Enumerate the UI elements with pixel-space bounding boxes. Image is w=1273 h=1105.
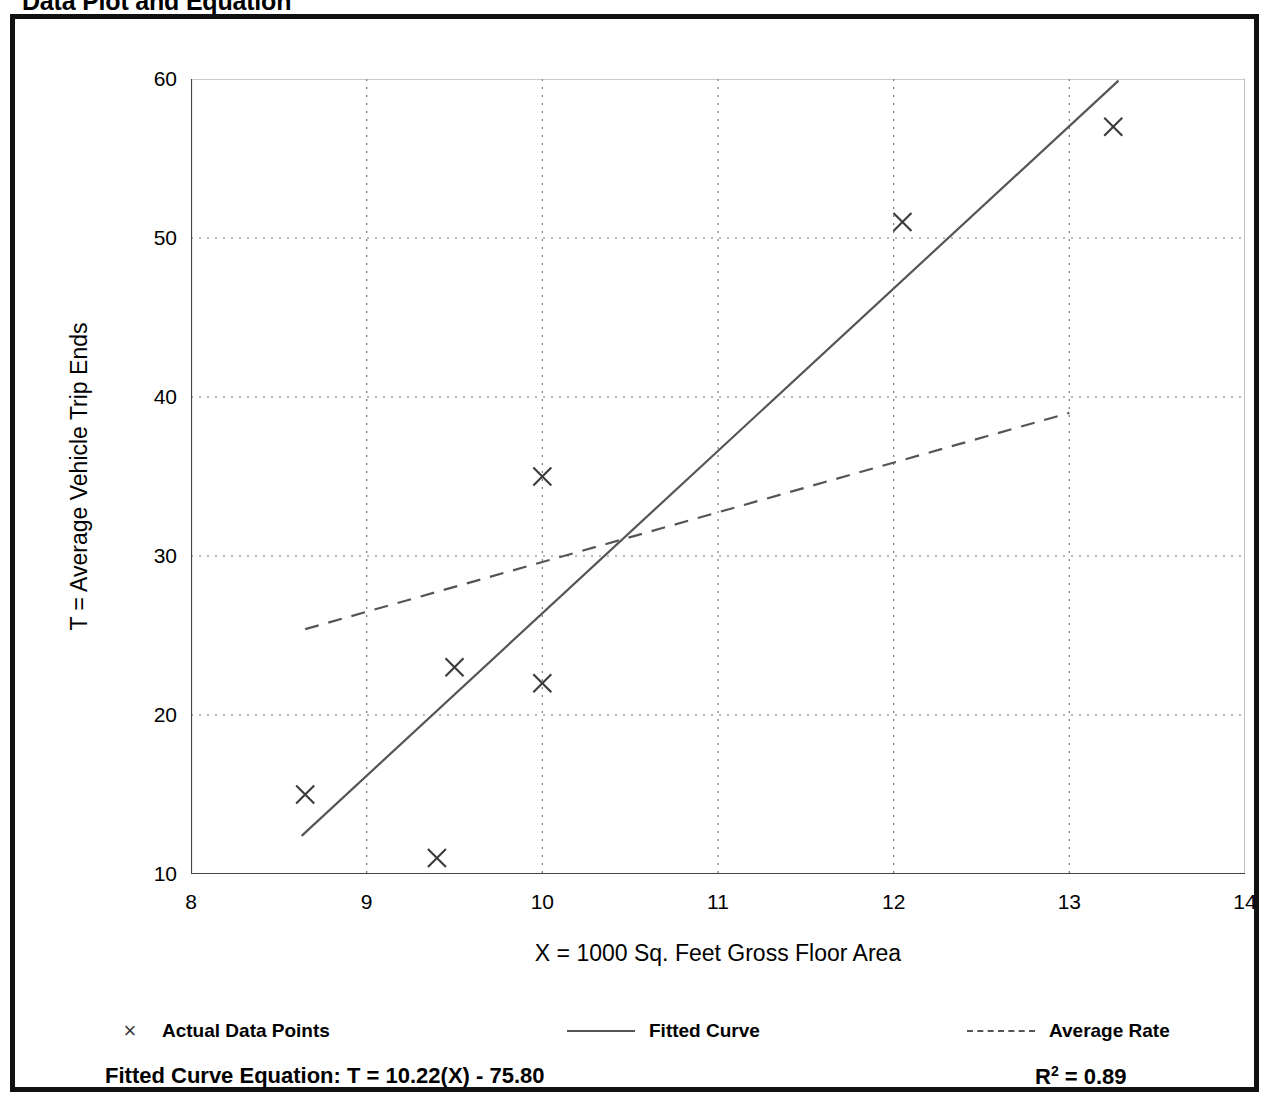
data-point-marker <box>533 674 551 692</box>
x-tick-label: 9 <box>337 891 397 913</box>
x-tick-label: 10 <box>512 891 572 913</box>
data-point-marker <box>533 468 551 486</box>
r-symbol: R <box>1035 1064 1051 1089</box>
x-tick-label: 8 <box>161 891 221 913</box>
x-axis-tick-labels: 891011121314 <box>191 891 1245 921</box>
legend-label: Average Rate <box>1049 1020 1170 1042</box>
y-tick-label: 50 <box>133 227 177 248</box>
average-rate-line <box>305 413 1069 629</box>
legend-label: Actual Data Points <box>162 1020 330 1042</box>
data-point-marker <box>428 849 446 867</box>
plot-area <box>191 79 1245 874</box>
chart-legend: × Actual Data Points Fitted Curve Averag… <box>75 1014 1255 1048</box>
plot-svg <box>191 79 1245 874</box>
r-value: = 0.89 <box>1065 1064 1127 1089</box>
equation-row: Fitted Curve Equation: T = 10.22(X) - 75… <box>75 1063 1255 1097</box>
legend-item-actual-data-points: × Actual Data Points <box>110 1014 330 1048</box>
x-tick-label: 12 <box>864 891 924 913</box>
fitted-curve-equation: Fitted Curve Equation: T = 10.22(X) - 75… <box>105 1063 545 1089</box>
y-axis-tick-labels: 102030405060 <box>125 79 177 874</box>
legend-item-fitted-curve: Fitted Curve <box>565 1014 760 1048</box>
figure-frame: 102030405060 891011121314 T = Average Ve… <box>10 14 1259 1092</box>
y-tick-label: 30 <box>133 545 177 566</box>
r-squared-value: R2 = 0.89 <box>1035 1063 1127 1090</box>
data-point-marker <box>1104 118 1122 136</box>
x-axis-title: X = 1000 Sq. Feet Gross Floor Area <box>191 940 1245 967</box>
y-tick-label: 40 <box>133 386 177 407</box>
y-axis-title: T = Average Vehicle Trip Ends <box>59 79 99 874</box>
x-tick-label: 11 <box>688 891 748 913</box>
y-tick-label: 20 <box>133 704 177 725</box>
x-tick-label: 14 <box>1215 891 1273 913</box>
data-point-marker <box>893 213 911 231</box>
dashed-line-icon <box>965 1021 1037 1041</box>
y-tick-label: 60 <box>133 68 177 89</box>
x-tick-label: 13 <box>1039 891 1099 913</box>
cross-marker-icon: × <box>110 1021 150 1041</box>
data-point-marker <box>446 658 464 676</box>
legend-item-average-rate: Average Rate <box>965 1014 1170 1048</box>
legend-label: Fitted Curve <box>649 1020 760 1042</box>
solid-line-icon <box>565 1021 637 1041</box>
fitted-curve-line <box>302 81 1119 836</box>
y-tick-label: 10 <box>133 863 177 884</box>
r-exponent: 2 <box>1051 1063 1059 1079</box>
data-point-marker <box>296 786 314 804</box>
